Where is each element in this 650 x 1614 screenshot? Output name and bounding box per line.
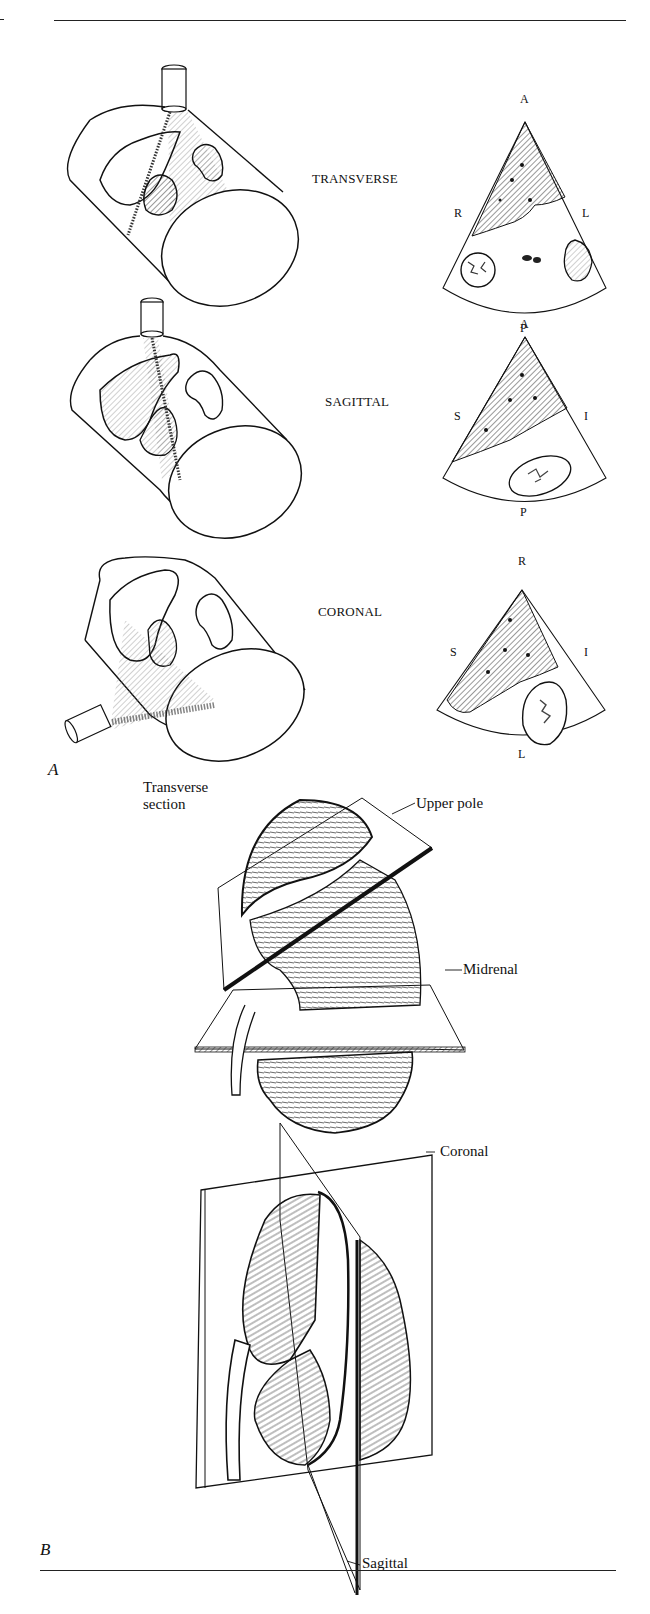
orientation-bottom-coronal: L <box>518 747 525 762</box>
plane-label-transverse: TRANSVERSE <box>312 171 398 187</box>
callout-upper-pole: Upper pole <box>416 795 483 812</box>
sagittal-body-diagram <box>70 298 318 558</box>
transverse-section-title-line2: section <box>143 796 208 813</box>
figure-drawing <box>0 0 650 1614</box>
longitudinal-section-kidney <box>196 1123 432 1595</box>
panel-label-b: B <box>40 1540 50 1560</box>
sagittal-scan-sector <box>443 337 606 504</box>
orientation-right-transverse: L <box>582 206 589 221</box>
orientation-bottom-sagittal: P <box>520 505 527 520</box>
transverse-body-diagram <box>68 65 316 326</box>
orientation-left-sagittal: S <box>454 409 461 424</box>
orientation-top-coronal: R <box>518 554 526 569</box>
bottom-rule-line <box>40 1570 616 1571</box>
panel-label-a: A <box>48 760 58 780</box>
upper-pole-leader <box>392 803 415 814</box>
orientation-right-sagittal: I <box>584 409 588 424</box>
orientation-top-transverse: A <box>520 92 529 107</box>
orientation-top-sagittal: A <box>520 317 529 332</box>
callout-coronal: Coronal <box>440 1143 488 1160</box>
coronal-body-diagram <box>63 557 323 783</box>
orientation-right-coronal: I <box>584 645 588 660</box>
plane-label-coronal: CORONAL <box>318 604 382 620</box>
callout-midrenal: Midrenal <box>463 961 518 978</box>
orientation-left-coronal: S <box>450 645 457 660</box>
transverse-section-title-line1: Transverse <box>143 779 208 796</box>
orientation-left-transverse: R <box>454 206 462 221</box>
transverse-section-title: Transverse section <box>143 779 208 813</box>
coronal-scan-sector <box>437 590 605 745</box>
transverse-section-kidney <box>195 798 465 1133</box>
plane-label-sagittal: SAGITTAL <box>325 394 389 410</box>
